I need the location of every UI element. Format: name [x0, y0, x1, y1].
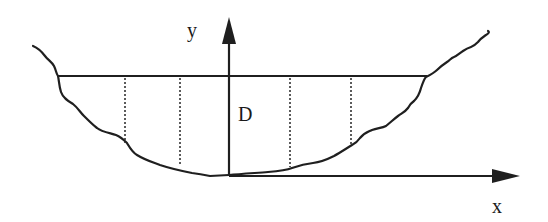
- y-axis-arrowhead-icon: [222, 17, 236, 44]
- x-axis-label: x: [492, 196, 502, 216]
- depth-label: D: [238, 104, 252, 124]
- x-axis-arrowhead-icon: [492, 169, 520, 183]
- channel-bed-right-bank: [229, 31, 489, 175]
- y-axis-label: y: [187, 20, 197, 40]
- channel-bed-left-bank: [33, 46, 229, 176]
- channel-cross-section-diagram: [0, 0, 548, 222]
